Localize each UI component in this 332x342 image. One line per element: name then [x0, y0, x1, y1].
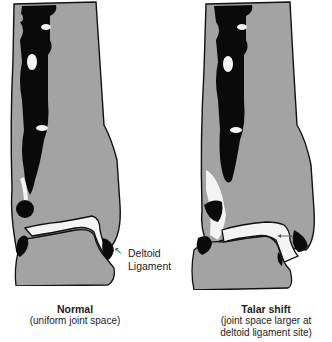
caption-normal-subtitle: (uniform joint space): [10, 315, 140, 327]
caption-normal: Normal (uniform joint space): [10, 303, 140, 327]
canal-hole-3: [230, 127, 242, 133]
canal-hole-2: [27, 54, 37, 70]
canal-hole-3: [36, 125, 48, 131]
caption-normal-title: Normal: [10, 303, 140, 315]
deltoid-line2: Ligament: [118, 260, 171, 273]
arrow-up-left-icon: ↖: [114, 245, 122, 258]
caption-talar-shift-subtitle-2: deltoid ligament site): [200, 327, 332, 339]
caption-talar-shift-title: Talar shift: [200, 303, 332, 315]
deltoid-line1: Deltoid: [118, 247, 171, 260]
canal-hole-2: [223, 56, 233, 72]
panel-talar-shift: [166, 0, 332, 300]
canal-hole-1: [237, 24, 247, 30]
deltoid-ligament-label: ↖ Deltoid Ligament: [118, 247, 171, 272]
caption-talar-shift: Talar shift (joint space larger at delto…: [200, 303, 332, 339]
canal-hole-1: [41, 24, 51, 30]
canal-notch: [17, 14, 23, 22]
tibiofibular-overlap: [16, 200, 34, 218]
ankle-talar-shift-illustration: [166, 0, 332, 300]
caption-talar-shift-subtitle-1: (joint space larger at: [200, 315, 332, 327]
